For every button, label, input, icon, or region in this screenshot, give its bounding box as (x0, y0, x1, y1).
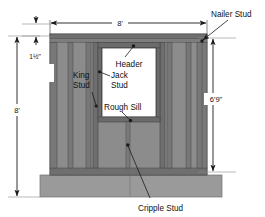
common-stud (86, 43, 91, 169)
top-plate (50, 34, 207, 39)
dimension-wall-width: 8' (50, 18, 207, 37)
left-nailer-stud (50, 43, 57, 169)
king-stud (160, 43, 165, 169)
label-nailer-stud: Nailer Stud (211, 10, 252, 19)
bottom-plate (50, 168, 207, 175)
common-stud (186, 43, 191, 169)
label-king-stud-line1: King (73, 71, 90, 80)
label-jack-stud-line2: Stud (111, 81, 128, 90)
label-king-stud-line2: Stud (73, 81, 90, 90)
jack-stud (156, 48, 160, 120)
dimension-top-plate: 1½" (22, 16, 54, 82)
label-rough-sill: Rough Sill (104, 103, 142, 112)
second-top-plate (50, 39, 207, 43)
label-cripple-stud: Cripple Stud (138, 204, 184, 213)
label-header: Header (116, 60, 143, 69)
jack-stud (98, 48, 102, 120)
framing-diagram-root: 8' 1½" 8' 6'9" (0, 0, 265, 217)
common-stud (167, 43, 172, 169)
header (98, 43, 160, 49)
dimension-top-plate-label: 1½" (29, 53, 41, 60)
common-stud (68, 43, 73, 169)
floor-slab (40, 175, 222, 197)
wall-framing-diagram: 8' 1½" 8' 6'9" (0, 0, 265, 217)
dimension-opening-height-label: 6'9" (210, 95, 223, 104)
label-jack-stud-line1: Jack (111, 71, 129, 80)
dimension-wall-width-label: 8' (117, 19, 123, 28)
dimension-wall-height-label: 8' (14, 106, 20, 115)
